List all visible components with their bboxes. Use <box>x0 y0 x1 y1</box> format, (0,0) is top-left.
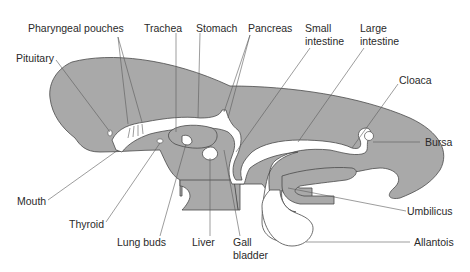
label-stomach: Stomach <box>196 22 237 35</box>
label-gall-bladder-line2: bladder <box>233 249 268 262</box>
label-liver: Liver <box>192 236 215 249</box>
tail-lobe <box>282 167 356 204</box>
label-thyroid: Thyroid <box>69 218 104 231</box>
label-pancreas: Pancreas <box>248 22 292 35</box>
label-pituitary: Pituitary <box>16 52 54 65</box>
label-gall-bladder-line1: Gall <box>233 236 268 249</box>
label-mouth: Mouth <box>17 195 46 208</box>
bursa-pouch <box>365 132 374 141</box>
label-small-intestine-line2: intestine <box>305 35 344 48</box>
label-trachea: Trachea <box>144 22 182 35</box>
label-large-intestine-line2: intestine <box>360 35 399 48</box>
label-large-intestine: Large intestine <box>360 22 399 47</box>
label-umbilicus: Umbilicus <box>407 205 453 218</box>
lung-bud <box>157 139 163 143</box>
label-lung-buds: Lung buds <box>117 236 166 249</box>
label-pharyngeal-pouches: Pharyngeal pouches <box>28 22 124 35</box>
label-small-intestine: Small intestine <box>305 22 344 47</box>
pituitary-pouch <box>108 130 112 136</box>
label-small-intestine-line1: Small <box>305 22 344 35</box>
ventral-tissue <box>180 180 238 210</box>
label-large-intestine-line1: Large <box>360 22 399 35</box>
label-cloaca: Cloaca <box>399 74 432 87</box>
label-allantois: Allantois <box>414 236 454 249</box>
label-bursa: Bursa <box>425 136 452 149</box>
label-gall-bladder: Gall bladder <box>233 236 268 261</box>
embryo-gut-diagram <box>0 0 470 272</box>
